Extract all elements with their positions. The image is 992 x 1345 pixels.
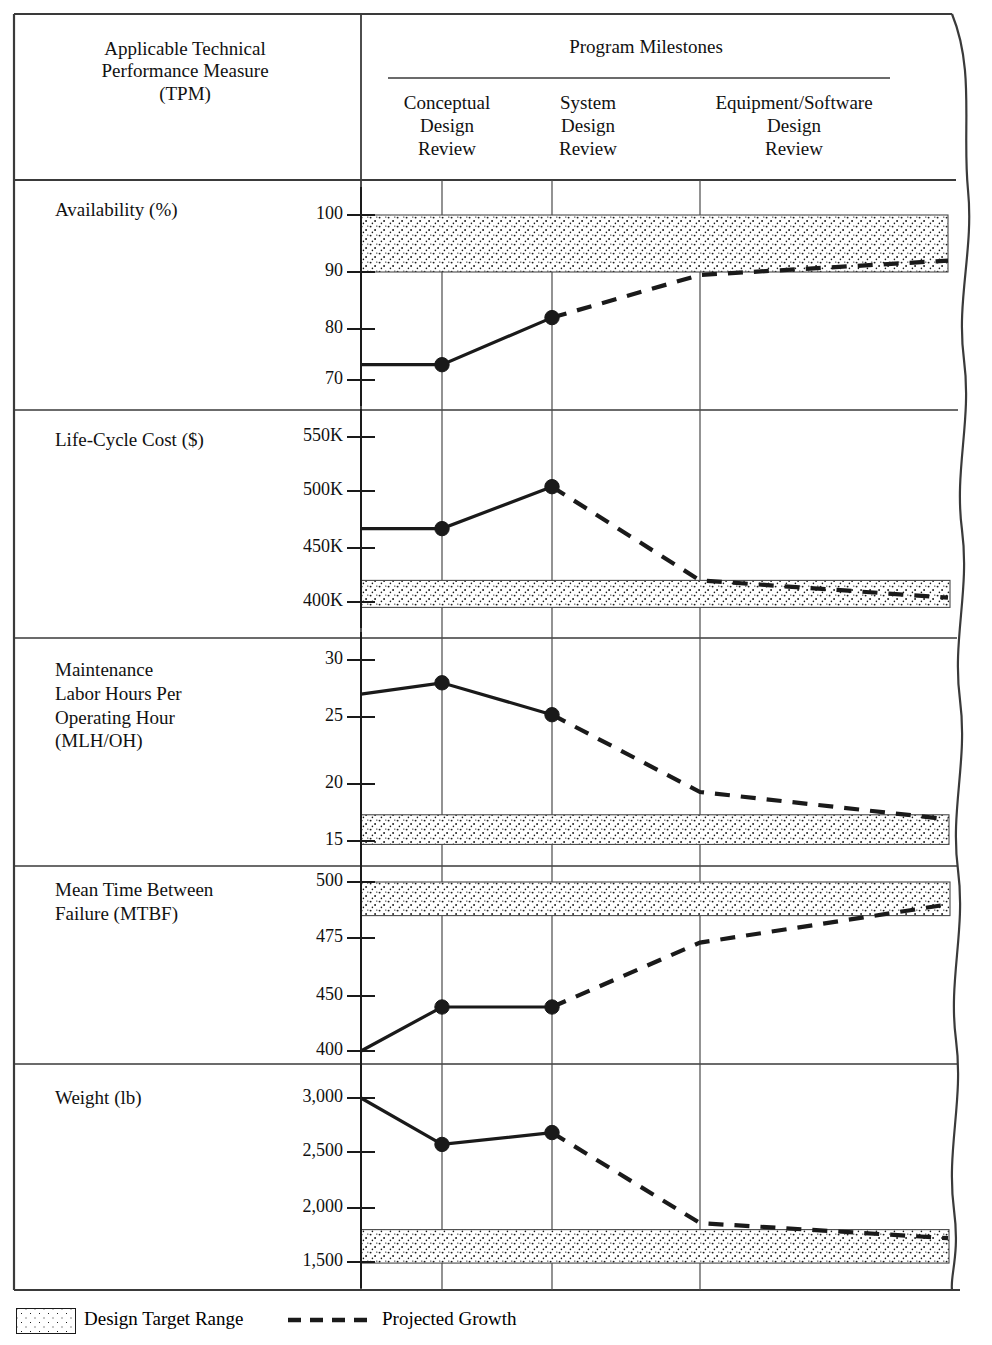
row-label-mtbf: Mean Time Between Failure (MTBF)	[55, 878, 213, 926]
data-point-marker	[435, 1000, 449, 1014]
tick-label-mtbf-400: 400	[257, 1039, 343, 1060]
tpm-tracking-figure: Applicable Technical Performance Measure…	[0, 0, 992, 1345]
column-header-equipment-software-design-review: Equipment/Software Design Review	[654, 92, 934, 160]
tick-label-maintenance-labor-hours-20: 20	[257, 772, 343, 793]
page-title: Applicable Technical Performance Measure…	[20, 38, 350, 105]
series-projected-growth-line	[552, 904, 948, 1007]
tick-label-maintenance-labor-hours-25: 25	[257, 705, 343, 726]
series-achieved-line	[361, 487, 552, 529]
chart-maintenance-labor-hours	[347, 632, 949, 867]
tick-label-availability-80: 80	[257, 317, 343, 338]
tick-label-mtbf-450: 450	[257, 984, 343, 1005]
chart-availability	[347, 187, 948, 406]
data-point-marker	[545, 310, 559, 324]
series-achieved-line	[361, 1098, 552, 1144]
tick-label-life-cycle-cost-450K: 450K	[257, 536, 343, 557]
design-target-range-band	[361, 882, 950, 916]
data-point-marker	[545, 479, 559, 493]
legend-label-projected-growth: Projected Growth	[382, 1308, 517, 1330]
row-label-weight: Weight (lb)	[55, 1086, 142, 1110]
legend-label-design-target-range: Design Target Range	[84, 1308, 243, 1330]
data-point-marker	[545, 1125, 559, 1139]
chart-life-cycle-cost	[347, 409, 950, 628]
design-target-range-band	[361, 1230, 949, 1263]
data-point-marker	[435, 358, 449, 372]
tick-label-maintenance-labor-hours-30: 30	[257, 648, 343, 669]
tick-label-life-cycle-cost-550K: 550K	[257, 425, 343, 446]
data-point-marker	[435, 1137, 449, 1151]
chart-mtbf	[347, 854, 950, 1077]
series-projected-growth-line	[552, 1133, 948, 1239]
tick-label-life-cycle-cost-500K: 500K	[257, 479, 343, 500]
series-achieved-line	[361, 1007, 552, 1051]
stipple-swatch-icon	[16, 1308, 76, 1334]
row-label-life-cycle-cost: Life-Cycle Cost ($)	[55, 428, 204, 452]
design-target-range-band	[361, 215, 948, 272]
tick-label-weight-1,500: 1,500	[257, 1250, 343, 1271]
series-projected-growth-line	[552, 715, 948, 820]
tick-label-mtbf-475: 475	[257, 926, 343, 947]
tick-label-availability-90: 90	[257, 260, 343, 281]
row-label-maintenance-labor-hours: Maintenance Labor Hours Per Operating Ho…	[55, 658, 182, 753]
tick-label-availability-100: 100	[257, 203, 343, 224]
row-label-availability: Availability (%)	[55, 198, 178, 222]
data-point-marker	[435, 521, 449, 535]
tick-label-weight-2,500: 2,500	[257, 1140, 343, 1161]
tick-label-weight-3,000: 3,000	[257, 1086, 343, 1107]
data-point-marker	[545, 708, 559, 722]
design-target-range-band	[361, 580, 950, 607]
tick-label-maintenance-labor-hours-15: 15	[257, 829, 343, 850]
program-milestones-title: Program Milestones	[366, 36, 926, 58]
tick-label-life-cycle-cost-400K: 400K	[257, 590, 343, 611]
series-achieved-line	[361, 683, 552, 715]
design-target-range-band	[361, 815, 949, 845]
column-header-conceptual-design-review: Conceptual Design Review	[372, 92, 522, 160]
data-point-marker	[545, 1000, 559, 1014]
tick-label-availability-70: 70	[257, 368, 343, 389]
series-achieved-line	[361, 318, 552, 365]
column-header-system-design-review: System Design Review	[528, 92, 648, 160]
tick-label-mtbf-500: 500	[257, 870, 343, 891]
tick-label-weight-2,000: 2,000	[257, 1196, 343, 1217]
data-point-marker	[435, 676, 449, 690]
chart-weight	[347, 1070, 949, 1288]
